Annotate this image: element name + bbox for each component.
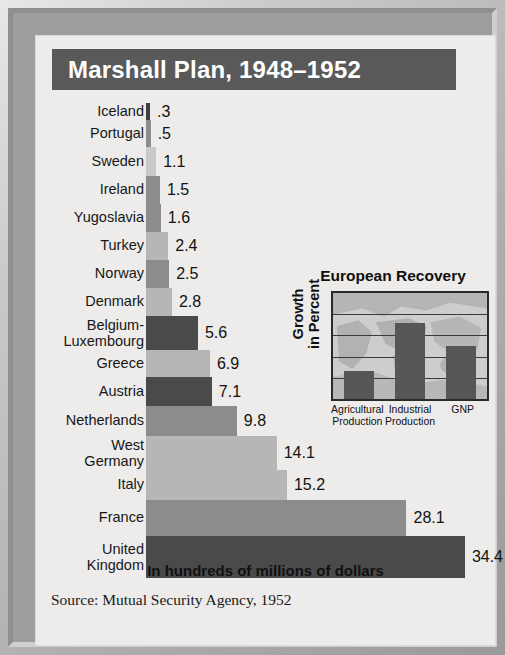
inset-x-axis-labels: AgriculturalProductionIndustrialProducti… bbox=[331, 404, 489, 434]
country-label-line1: Netherlands bbox=[4, 413, 144, 428]
inset-category-label: GNP bbox=[436, 404, 489, 434]
country-label: Portugal bbox=[4, 126, 144, 141]
country-label: Netherlands bbox=[4, 413, 144, 428]
bar-segment bbox=[146, 377, 212, 406]
bar-segment bbox=[146, 288, 172, 316]
european-recovery-inset-chart: European Recovery Growth in Percent bbox=[267, 267, 495, 467]
bar-value-label: 1.5 bbox=[167, 181, 189, 199]
bar-segment bbox=[146, 260, 169, 288]
country-label-line1: Italy bbox=[4, 477, 144, 492]
bar-value-label: 2.8 bbox=[179, 293, 201, 311]
bar-segment bbox=[146, 232, 168, 260]
inset-plot-frame: 50403020100 bbox=[331, 291, 489, 401]
country-label: Turkey bbox=[4, 238, 144, 253]
bevel-border: Marshall Plan, 1948–1952 Iceland.3Portug… bbox=[8, 8, 497, 647]
inset-bar bbox=[395, 323, 425, 399]
country-label: WestGermany bbox=[4, 438, 144, 469]
country-label-line2: Luxembourg bbox=[4, 334, 144, 350]
country-label-line1: Iceland bbox=[4, 104, 144, 119]
bar-value-label: 15.2 bbox=[294, 476, 325, 494]
bar-segment bbox=[146, 500, 406, 536]
country-label: Sweden bbox=[4, 154, 144, 169]
country-label: Greece bbox=[4, 356, 144, 371]
table-row: Iceland.3 bbox=[35, 103, 496, 120]
country-label-line1: West bbox=[4, 438, 144, 454]
bar-segment bbox=[146, 204, 161, 232]
page-title: Marshall Plan, 1948–1952 bbox=[52, 56, 361, 84]
bar-value-label: 7.1 bbox=[219, 383, 241, 401]
bar-segment bbox=[146, 120, 151, 147]
country-label-line1: Denmark bbox=[4, 294, 144, 309]
bar-segment bbox=[146, 436, 277, 470]
chart-panel: Marshall Plan, 1948–1952 Iceland.3Portug… bbox=[35, 35, 496, 646]
country-label: Yugoslavia bbox=[4, 210, 144, 225]
table-row: Portugal.5 bbox=[35, 120, 496, 147]
poster-frame: Marshall Plan, 1948–1952 Iceland.3Portug… bbox=[0, 0, 505, 655]
bar-value-label: .3 bbox=[157, 103, 170, 121]
inset-category-label: AgriculturalProduction bbox=[331, 404, 384, 434]
inset-bar bbox=[344, 371, 374, 399]
country-label-line1: Greece bbox=[4, 356, 144, 371]
bar-segment bbox=[146, 316, 198, 350]
country-label: France bbox=[4, 510, 144, 525]
table-row: Italy15.2 bbox=[35, 470, 496, 500]
bar-value-label: 1.1 bbox=[163, 153, 185, 171]
country-label-line1: Portugal bbox=[4, 126, 144, 141]
title-bar: Marshall Plan, 1948–1952 bbox=[52, 49, 456, 90]
table-row: Ireland1.5 bbox=[35, 176, 496, 204]
bar-value-label: 9.8 bbox=[244, 412, 266, 430]
country-label-line1: Yugoslavia bbox=[4, 210, 144, 225]
country-label-line1: Sweden bbox=[4, 154, 144, 169]
bar-value-label: 2.4 bbox=[175, 237, 197, 255]
country-label: Ireland bbox=[4, 182, 144, 197]
country-label-line1: Belgium- bbox=[4, 318, 144, 334]
inset-category-label: IndustrialProduction bbox=[384, 404, 437, 434]
bar-segment bbox=[146, 350, 210, 377]
bar-segment bbox=[146, 147, 156, 176]
country-label: Belgium-Luxembourg bbox=[4, 318, 144, 349]
bar-segment bbox=[146, 470, 287, 500]
inset-y-axis-label: Growth in Percent bbox=[290, 259, 312, 369]
country-label-line1: United bbox=[4, 542, 144, 558]
country-label-line1: Ireland bbox=[4, 182, 144, 197]
country-label: Norway bbox=[4, 266, 144, 281]
inset-bar bbox=[446, 346, 476, 399]
country-label: Austria bbox=[4, 384, 144, 399]
bar-value-label: 1.6 bbox=[168, 209, 190, 227]
country-label-line1: Norway bbox=[4, 266, 144, 281]
country-label-line1: Turkey bbox=[4, 238, 144, 253]
source-line: Source: Mutual Security Agency, 1952 bbox=[51, 591, 292, 609]
country-label-line2: Germany bbox=[4, 454, 144, 470]
inset-gridline bbox=[333, 314, 487, 315]
bar-segment bbox=[146, 176, 160, 204]
bar-value-label: .5 bbox=[158, 125, 171, 143]
table-row: France28.1 bbox=[35, 500, 496, 536]
country-label: Denmark bbox=[4, 294, 144, 309]
country-label-line1: France bbox=[4, 510, 144, 525]
bar-segment bbox=[146, 406, 237, 436]
inset-y-axis-label-line1: Growth bbox=[290, 259, 306, 369]
bar-value-label: 2.5 bbox=[176, 265, 198, 283]
inset-plot-area: 50403020100 AgriculturalProductionIndust… bbox=[314, 291, 489, 413]
table-row: Yugoslavia1.6 bbox=[35, 204, 496, 232]
bar-segment bbox=[146, 103, 150, 120]
country-label: Italy bbox=[4, 477, 144, 492]
chart-footnote: In hundreds of millions of dollars bbox=[35, 562, 496, 579]
country-label: Iceland bbox=[4, 104, 144, 119]
country-label-line1: Austria bbox=[4, 384, 144, 399]
table-row: Turkey2.4 bbox=[35, 232, 496, 260]
bar-value-label: 5.6 bbox=[205, 324, 227, 342]
table-row: Sweden1.1 bbox=[35, 147, 496, 176]
bar-value-label: 6.9 bbox=[217, 355, 239, 373]
bar-value-label: 28.1 bbox=[413, 509, 444, 527]
